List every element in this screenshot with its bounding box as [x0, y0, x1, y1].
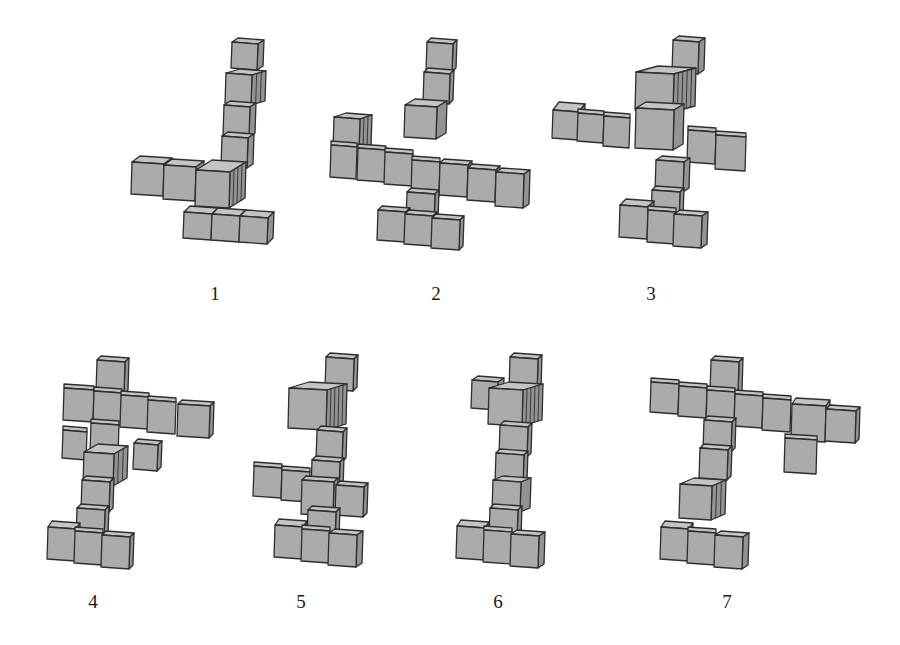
cube: [426, 38, 457, 72]
cube: [133, 439, 162, 471]
cube: [101, 531, 134, 569]
figure-label-1: 1: [210, 283, 220, 305]
cube: [74, 527, 103, 565]
cube-figure-6: [456, 353, 545, 568]
cube: [225, 69, 266, 105]
cube: [384, 148, 413, 186]
cube: [253, 462, 282, 498]
cube: [404, 99, 447, 139]
cube: [678, 382, 707, 418]
cube: [603, 112, 630, 148]
cube: [330, 141, 357, 179]
figure-label-4: 4: [88, 591, 98, 613]
cube-figure-2: [330, 38, 530, 250]
cube: [510, 530, 545, 568]
cube: [714, 531, 749, 569]
cube: [679, 478, 726, 520]
cube: [301, 525, 330, 563]
cube: [239, 210, 274, 244]
cube: [63, 384, 94, 422]
cube-figure-5: [253, 353, 368, 567]
cube: [195, 160, 246, 208]
cube: [483, 526, 512, 564]
cube: [495, 168, 530, 208]
cube: [784, 434, 817, 474]
cube: [120, 391, 149, 429]
cube: [650, 378, 679, 414]
cube: [288, 382, 347, 430]
cube: [715, 131, 746, 171]
cube: [431, 214, 464, 250]
cube: [577, 109, 604, 143]
cube-figure-7: [650, 356, 860, 569]
cube-figures-drawing: [0, 0, 900, 645]
cube: [231, 38, 264, 70]
cube: [488, 382, 543, 426]
cube: [687, 126, 716, 164]
cube: [762, 394, 791, 432]
figure-label-3: 3: [646, 283, 656, 305]
figure-label-6: 6: [493, 591, 503, 613]
cube: [647, 206, 676, 244]
figure-label-2: 2: [431, 283, 441, 305]
cube: [328, 529, 363, 567]
cube: [62, 426, 87, 460]
cube-figure-3: [552, 36, 746, 248]
cube: [177, 400, 214, 438]
figure-label-5: 5: [296, 591, 306, 613]
cube: [423, 68, 454, 104]
cube: [734, 390, 763, 428]
cube-figure-1: [131, 38, 274, 244]
cube: [357, 144, 386, 182]
figure-label-7: 7: [722, 591, 732, 613]
figure-canvas: 1 2 3 4 5 6 7: [0, 0, 900, 645]
cube: [825, 405, 860, 443]
cube: [635, 102, 684, 150]
cube-figure-4: [47, 356, 214, 569]
cube: [673, 210, 708, 248]
cube: [687, 527, 716, 565]
cube: [699, 444, 732, 480]
cube: [147, 396, 176, 434]
